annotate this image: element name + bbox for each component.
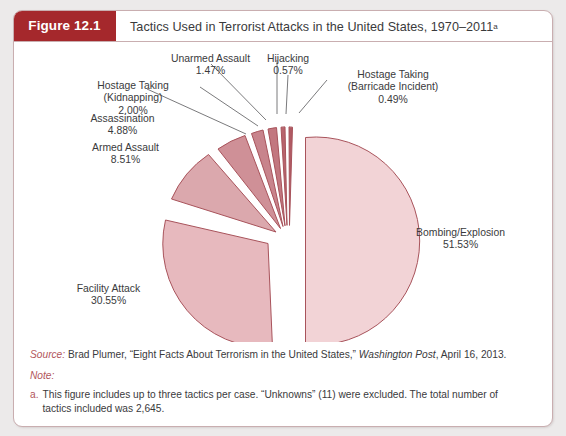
note-text: This figure includes up to three tactics… xyxy=(43,388,509,415)
figure-note-item: a. This figure includes up to three tact… xyxy=(30,388,538,415)
pie-slice-facility-attack[interactable] xyxy=(163,220,273,342)
pie-label-armed-assault: Armed Assault 8.51% xyxy=(75,142,176,167)
figure-title-text: Tactics Used in Terrorist Attacks in the… xyxy=(130,20,493,34)
figure-title: Tactics Used in Terrorist Attacks in the… xyxy=(130,11,498,42)
pie-label-line: (Kidnapping) xyxy=(75,92,191,104)
source-publication: Washington Post xyxy=(359,349,436,360)
pie-label-line: Unarmed Assault xyxy=(158,53,263,65)
source-label: Source: xyxy=(30,349,65,360)
pie-label-unarmed-assault: Unarmed Assault 1.47% xyxy=(158,53,263,78)
figure-card: Figure 12.1 Tactics Used in Terrorist At… xyxy=(13,10,553,427)
pie-label-value: 30.55% xyxy=(56,295,161,307)
pie-label-line: Hostage Taking xyxy=(328,69,458,81)
figure-source-line: Source: Brad Plumer, “Eight Facts About … xyxy=(30,348,538,362)
pie-label-hijacking: Hijacking 0.57% xyxy=(252,53,324,78)
source-text-part-1: Brad Plumer, “Eight Facts About Terroris… xyxy=(65,349,359,360)
pie-label-facility-attack: Facility Attack 30.55% xyxy=(56,283,161,308)
figure-note-label: Note: xyxy=(30,369,538,383)
pie-label-line: Assassination xyxy=(72,113,173,125)
pie-label-line: Armed Assault xyxy=(75,142,176,154)
pie-chart-area: Hostage Taking (Kidnapping) 2.00% Unarme… xyxy=(14,42,553,342)
pie-label-hostage-taking-barricade: Hostage Taking (Barricade Incident) 0.49… xyxy=(328,69,458,106)
leader-line-hostage-barricade xyxy=(299,80,327,113)
leader-line-hijacking-b xyxy=(286,75,288,114)
pie-label-value: 0.49% xyxy=(328,94,458,106)
pie-label-hostage-taking-kidnapping: Hostage Taking (Kidnapping) 2.00% xyxy=(75,80,191,117)
pie-label-value: 1.47% xyxy=(158,65,263,77)
pie-label-line: Hostage Taking xyxy=(75,80,191,92)
pie-label-line: Hijacking xyxy=(252,53,324,65)
note-label: Note: xyxy=(30,370,54,381)
note-marker: a. xyxy=(30,388,39,415)
pie-label-line: Bombing/Explosion xyxy=(400,227,521,239)
figure-header: Figure 12.1 Tactics Used in Terrorist At… xyxy=(14,11,552,42)
pie-label-line: (Barricade Incident) xyxy=(328,81,458,93)
pie-label-value: 0.57% xyxy=(252,65,324,77)
figure-footnotes: Source: Brad Plumer, “Eight Facts About … xyxy=(14,344,553,415)
source-text-part-2: , April 16, 2013. xyxy=(436,349,507,360)
figure-number-tab: Figure 12.1 xyxy=(13,10,116,41)
pie-label-value: 8.51% xyxy=(75,154,176,166)
pie-label-line: Facility Attack xyxy=(56,283,161,295)
pie-label-bombing-explosion: Bombing/Explosion 51.53% xyxy=(400,227,521,252)
pie-slice-hostage-taking-barricade[interactable] xyxy=(289,127,293,225)
leader-line-assassination xyxy=(200,87,258,126)
pie-label-assassination: Assassination 4.88% xyxy=(72,113,173,138)
pie-label-value: 4.88% xyxy=(72,125,173,137)
pie-label-value: 51.53% xyxy=(400,239,521,251)
